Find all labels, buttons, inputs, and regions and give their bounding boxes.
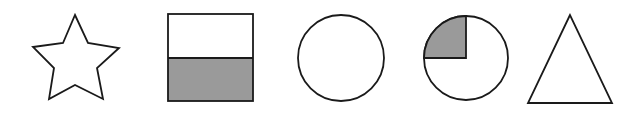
half-shaded-square [168,14,253,101]
star-shape [33,15,119,99]
triangle-shape [528,15,612,103]
quarter-shaded-circle [424,16,508,100]
shapes-figure [0,0,644,115]
empty-circle [298,15,384,101]
